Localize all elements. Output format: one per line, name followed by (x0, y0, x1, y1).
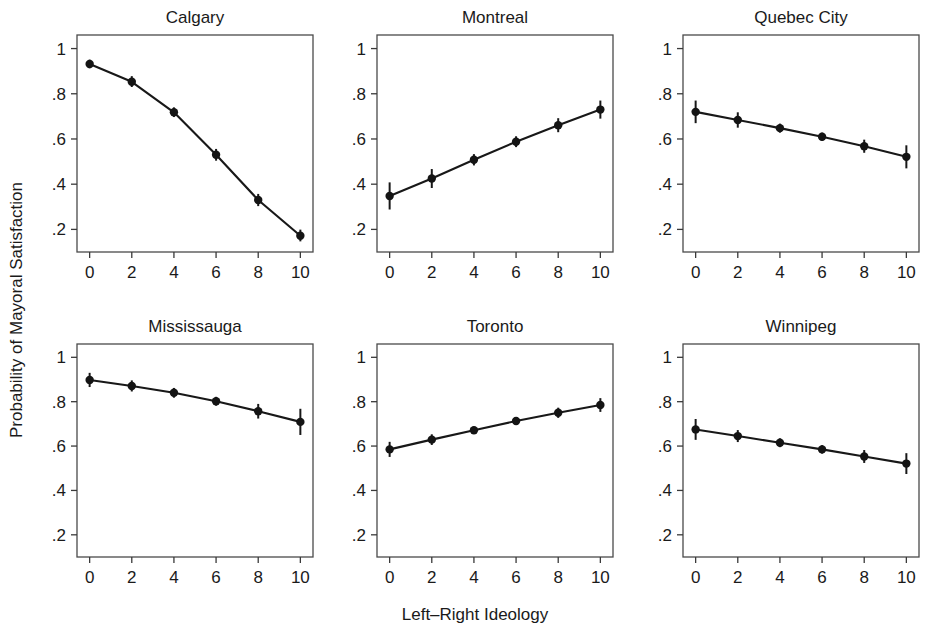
panel-frame (377, 344, 613, 557)
y-tick-label: .8 (52, 85, 66, 104)
panel-frame (77, 344, 313, 557)
y-tick-label: .4 (52, 175, 66, 194)
y-tick-label: .2 (658, 220, 672, 239)
x-tick-label: 8 (859, 263, 868, 282)
y-tick-label: 1 (663, 348, 672, 367)
y-tick-label: .2 (658, 526, 672, 545)
series-line (696, 429, 907, 463)
y-tick-label: .6 (352, 130, 366, 149)
y-tick-label: .4 (658, 175, 672, 194)
data-point-marker (85, 376, 93, 384)
data-point-marker (296, 232, 304, 240)
y-tick-label: .2 (352, 526, 366, 545)
data-point-marker (128, 78, 136, 86)
series-line (696, 112, 907, 157)
data-point-marker (85, 60, 93, 68)
data-point-marker (470, 156, 478, 164)
y-tick-label: 1 (663, 40, 672, 59)
y-tick-label: 1 (357, 40, 366, 59)
x-tick-label: 2 (127, 568, 136, 587)
y-axis-title: Probability of Mayoral Satisfaction (7, 182, 26, 438)
data-point-marker (212, 397, 220, 405)
data-point-marker (128, 382, 136, 390)
x-tick-label: 10 (291, 263, 310, 282)
y-tick-label: .6 (658, 130, 672, 149)
panel-frame (377, 35, 613, 252)
panel-toronto: Toronto.2.4.6.810246810 (352, 317, 613, 587)
x-tick-label: 4 (775, 568, 784, 587)
data-point-marker (296, 418, 304, 426)
panels-group: Calgary.2.4.6.810246810Montreal.2.4.6.81… (52, 8, 919, 587)
data-point-marker (428, 174, 436, 182)
x-tick-label: 10 (897, 263, 916, 282)
x-tick-label: 4 (775, 263, 784, 282)
series-line (90, 380, 301, 422)
y-tick-label: .8 (658, 85, 672, 104)
data-point-marker (385, 445, 393, 453)
x-tick-label: 0 (691, 568, 700, 587)
panel-calgary: Calgary.2.4.6.810246810 (52, 8, 313, 282)
y-tick-label: 1 (357, 348, 366, 367)
data-point-marker (470, 426, 478, 434)
series-line (90, 64, 301, 236)
data-point-marker (428, 435, 436, 443)
y-tick-label: .6 (52, 130, 66, 149)
x-tick-label: 0 (85, 568, 94, 587)
mayoral-satisfaction-figure: Calgary.2.4.6.810246810Montreal.2.4.6.81… (0, 0, 929, 631)
x-tick-label: 8 (553, 568, 562, 587)
y-tick-label: .8 (52, 393, 66, 412)
x-tick-label: 4 (169, 263, 178, 282)
x-tick-label: 0 (385, 263, 394, 282)
y-tick-label: .8 (658, 393, 672, 412)
y-tick-label: 1 (57, 40, 66, 59)
x-tick-label: 2 (733, 568, 742, 587)
data-point-marker (254, 407, 262, 415)
y-tick-label: .6 (658, 437, 672, 456)
panel-title: Toronto (467, 317, 524, 336)
data-point-marker (596, 401, 604, 409)
panel-title: Winnipeg (766, 317, 837, 336)
data-point-marker (734, 432, 742, 440)
data-point-marker (554, 121, 562, 129)
data-point-marker (776, 439, 784, 447)
y-tick-label: .4 (352, 175, 366, 194)
x-tick-label: 8 (253, 263, 262, 282)
data-point-marker (860, 452, 868, 460)
data-point-marker (554, 409, 562, 417)
x-tick-label: 10 (591, 263, 610, 282)
panel-frame (683, 35, 919, 252)
x-tick-label: 0 (691, 263, 700, 282)
panel-quebec-city: Quebec City.2.4.6.810246810 (658, 8, 919, 282)
y-tick-label: .4 (52, 481, 66, 500)
y-tick-label: .6 (352, 437, 366, 456)
y-tick-label: .4 (658, 481, 672, 500)
y-tick-label: .2 (52, 220, 66, 239)
x-tick-label: 6 (511, 568, 520, 587)
x-axis-title: Left–Right Ideology (402, 605, 549, 624)
series-line (390, 110, 601, 196)
y-tick-label: .2 (352, 220, 366, 239)
data-point-marker (254, 196, 262, 204)
data-point-marker (902, 153, 910, 161)
chart-canvas: Calgary.2.4.6.810246810Montreal.2.4.6.81… (0, 0, 929, 631)
data-point-marker (170, 389, 178, 397)
x-tick-label: 6 (211, 263, 220, 282)
x-tick-label: 2 (127, 263, 136, 282)
panel-mississauga: Mississauga.2.4.6.810246810 (52, 317, 313, 587)
panel-title: Montreal (462, 8, 528, 27)
x-tick-label: 6 (817, 568, 826, 587)
data-point-marker (818, 133, 826, 141)
panel-frame (683, 344, 919, 557)
x-tick-label: 4 (469, 568, 478, 587)
y-tick-label: 1 (57, 348, 66, 367)
data-point-marker (691, 425, 699, 433)
x-tick-label: 4 (169, 568, 178, 587)
data-point-marker (512, 137, 520, 145)
panel-title: Mississauga (148, 317, 242, 336)
x-tick-label: 0 (385, 568, 394, 587)
x-tick-label: 10 (291, 568, 310, 587)
data-point-marker (691, 108, 699, 116)
series-line (390, 405, 601, 449)
panel-winnipeg: Winnipeg.2.4.6.810246810 (658, 317, 919, 587)
x-tick-label: 2 (733, 263, 742, 282)
